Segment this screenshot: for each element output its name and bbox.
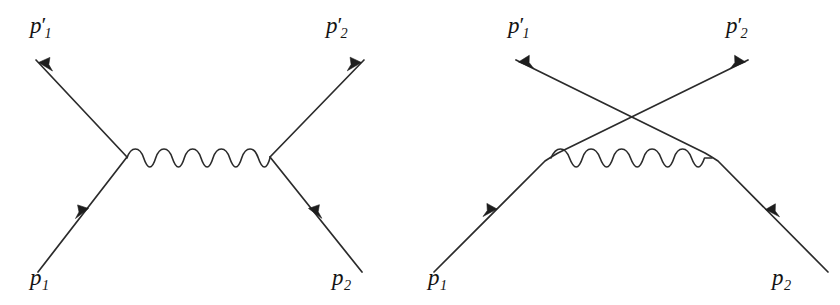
feynman-diagram-figure: p′1 p′2 p1 p2 p′1 p′2 p1 p2: [0, 0, 840, 305]
label-subscript: 2: [344, 277, 351, 293]
label-base: p: [332, 265, 344, 290]
direct-diagram: [36, 57, 364, 272]
label-subscript: 1: [44, 25, 51, 41]
fermion-leg-p2-in: [270, 157, 362, 272]
photon-propagator-exchange: [551, 149, 712, 167]
fermion-leg-p1-in: [38, 157, 127, 272]
label-p1-prime-exchange: p′1: [508, 14, 530, 40]
label-subscript: 2: [784, 277, 791, 293]
fermion-leg-p1-out: [36, 60, 127, 157]
label-p1-direct: p1: [30, 266, 49, 292]
label-p2-exchange: p2: [772, 266, 791, 292]
label-subscript: 2: [740, 25, 747, 41]
label-p2-direct: p2: [332, 266, 351, 292]
label-p1-prime-direct: p′1: [30, 14, 52, 40]
label-subscript: 1: [522, 25, 529, 41]
fermion-leg-p2-out: [270, 60, 364, 157]
label-base: p: [772, 265, 784, 290]
exchange-diagram: [434, 55, 828, 272]
arrow-head-p2-out-exchange: [731, 55, 746, 68]
label-subscript: 1: [42, 277, 49, 293]
label-subscript: 1: [440, 277, 447, 293]
fermion-line-p2-to-p1prime: [516, 60, 828, 272]
label-p2-prime-direct: p′2: [326, 14, 348, 40]
label-p1-exchange: p1: [428, 266, 447, 292]
arrow-head-p1-in-exchange: [483, 203, 497, 216]
diagram-canvas: [0, 0, 840, 305]
photon-propagator: [127, 149, 270, 167]
label-base: p: [428, 265, 440, 290]
label-base: p: [30, 265, 42, 290]
arrow-head-p1-out-exchange: [519, 55, 534, 68]
label-p2-prime-exchange: p′2: [726, 14, 748, 40]
label-subscript: 2: [340, 25, 347, 41]
